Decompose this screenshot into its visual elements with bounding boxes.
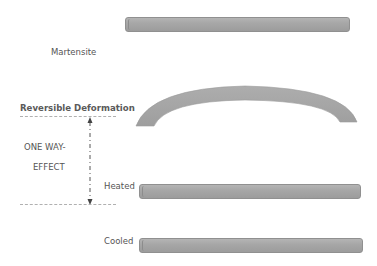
one-way-effect-label-line2: EFFECT <box>33 162 65 172</box>
diagram-shapes <box>0 0 377 266</box>
one-way-effect-label-line1: ONE WAY- <box>24 142 65 152</box>
cooled-bar <box>139 238 363 253</box>
upper-reference-line <box>20 116 116 117</box>
lower-reference-line <box>20 204 116 205</box>
reversible-deformation-label: Reversible Deformation <box>20 103 135 113</box>
cooled-label: Cooled <box>104 236 133 246</box>
deformed-arc <box>136 86 357 126</box>
heated-bar <box>139 184 361 199</box>
arrow-up-icon <box>88 117 93 123</box>
heated-label: Heated <box>104 181 135 191</box>
